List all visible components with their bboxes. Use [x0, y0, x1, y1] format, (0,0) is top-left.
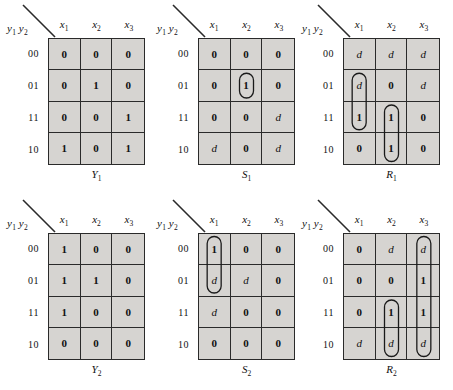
kmap-y2: y1 y2x1x2x300011110100110100000Y2: [0, 195, 145, 390]
kmap-cell: d: [407, 234, 439, 265]
kmap-cell: 1: [81, 265, 113, 296]
column-headers: x1x2x3: [198, 18, 295, 33]
kmap-cell: 1: [112, 133, 144, 164]
kmap-cell: 0: [231, 328, 263, 359]
column-headers: x1x2x3: [198, 213, 295, 228]
column-headers: x1x2x3: [48, 18, 145, 33]
kmap-cell: 0: [49, 102, 81, 133]
column-header-x1: x1: [48, 18, 80, 33]
kmap-cell: d: [344, 328, 376, 359]
kmap-cell: 0: [112, 234, 144, 265]
column-header-x2: x2: [375, 213, 407, 228]
kmap-cell: 0: [376, 70, 408, 101]
row-header-11: 11: [0, 102, 44, 134]
kmap-r1: y1 y2x1x2x300011110dddd0d110010R1: [295, 0, 440, 195]
kmap-cell: d: [262, 102, 294, 133]
kmap-cell: 0: [344, 265, 376, 296]
kmap-cell: 0: [376, 265, 408, 296]
row-header-00: 00: [295, 38, 339, 70]
row-headers: 00011110: [0, 233, 44, 360]
kmap-title-s1: S1: [198, 168, 295, 183]
kmap-cell: 0: [407, 102, 439, 133]
kmap-cell: 1: [49, 133, 81, 164]
kmap-cell: 0: [112, 328, 144, 359]
kmap-s2: y1 y2x1x2x300011110100dd0d00000S2: [150, 195, 295, 390]
kmap-cell: 0: [231, 297, 263, 328]
row-header-10: 10: [150, 133, 194, 165]
kmap-cell: 1: [49, 297, 81, 328]
row-header-01: 01: [150, 265, 194, 297]
kmap-cell: 1: [407, 265, 439, 296]
kmap-r2: y1 y2x1x2x3000111100dd001011dddR2: [295, 195, 440, 390]
kmap-cell: 1: [49, 265, 81, 296]
column-header-x3: x3: [263, 18, 295, 33]
kmap-cell: 1: [407, 297, 439, 328]
kmap-cell: d: [199, 133, 231, 164]
row-header-01: 01: [0, 70, 44, 102]
kmap-cell: 0: [344, 133, 376, 164]
kmap-cell: 0: [262, 265, 294, 296]
kmap-cell: 0: [81, 234, 113, 265]
kmap-cell: d: [231, 265, 263, 296]
column-header-x3: x3: [113, 213, 145, 228]
kmap-cell: 1: [231, 70, 263, 101]
column-header-x3: x3: [263, 213, 295, 228]
kmap-title-y1: Y1: [48, 168, 145, 183]
kmap-cell: 1: [376, 297, 408, 328]
kmap-cell: d: [344, 39, 376, 70]
row-header-00: 00: [0, 233, 44, 265]
kmap-cell: 0: [344, 234, 376, 265]
kmap-cell: 1: [344, 102, 376, 133]
kmap-cell: 0: [112, 70, 144, 101]
column-header-x3: x3: [408, 18, 440, 33]
row-header-10: 10: [0, 328, 44, 360]
axis-label-y1y2: y1 y2: [7, 217, 28, 232]
row-header-00: 00: [150, 38, 194, 70]
kmap-grid: 100110100000: [48, 233, 145, 360]
row-headers: 00011110: [0, 38, 44, 165]
column-header-x2: x2: [80, 18, 112, 33]
row-header-01: 01: [295, 265, 339, 297]
row-header-10: 10: [295, 328, 339, 360]
kmap-cell: d: [199, 265, 231, 296]
axis-label-y1y2: y1 y2: [157, 22, 178, 37]
kmap-cell: 0: [81, 39, 113, 70]
row-header-11: 11: [295, 297, 339, 329]
kmap-cell: d: [344, 70, 376, 101]
row-header-00: 00: [0, 38, 44, 70]
kmap-title-r1: R1: [343, 168, 440, 183]
kmap-cell: 0: [231, 234, 263, 265]
kmap-cell: 0: [231, 39, 263, 70]
row-header-10: 10: [150, 328, 194, 360]
kmap-cell: 1: [376, 133, 408, 164]
kmap-cell: 0: [81, 297, 113, 328]
column-headers: x1x2x3: [48, 213, 145, 228]
row-headers: 00011110: [295, 233, 339, 360]
kmap-figure: y1 y2x1x2x300011110000010001101Y1y1 y2x1…: [0, 0, 453, 390]
kmap-cell: 1: [112, 102, 144, 133]
row-header-11: 11: [150, 297, 194, 329]
kmap-cell: 1: [49, 234, 81, 265]
kmap-cell: 0: [262, 328, 294, 359]
axis-label-y1y2: y1 y2: [302, 217, 323, 232]
kmap-title-y2: Y2: [48, 363, 145, 378]
column-header-x2: x2: [230, 213, 262, 228]
row-header-00: 00: [295, 233, 339, 265]
column-header-x1: x1: [343, 213, 375, 228]
kmap-cell: 0: [199, 328, 231, 359]
kmap-grid: 0dd001011ddd: [343, 233, 440, 360]
axis-label-y1y2: y1 y2: [7, 22, 28, 37]
kmap-cell: d: [407, 328, 439, 359]
kmap-title-s2: S2: [198, 363, 295, 378]
kmap-cell: 0: [199, 70, 231, 101]
row-header-11: 11: [150, 102, 194, 134]
kmap-cell: 0: [112, 39, 144, 70]
kmap-cell: 0: [262, 70, 294, 101]
row-header-01: 01: [0, 265, 44, 297]
kmap-cell: 0: [262, 39, 294, 70]
kmap-cell: 0: [199, 39, 231, 70]
column-header-x2: x2: [80, 213, 112, 228]
kmap-cell: 0: [49, 70, 81, 101]
kmap-cell: 0: [49, 328, 81, 359]
column-header-x3: x3: [113, 18, 145, 33]
